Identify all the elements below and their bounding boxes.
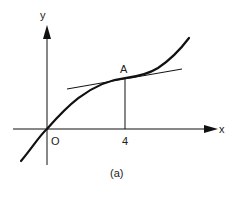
point-a-label: A	[120, 63, 128, 75]
y-axis-arrow-icon	[43, 25, 51, 39]
graph-figure: y x O A 4 (a)	[0, 0, 234, 198]
y-axis-label: y	[40, 9, 46, 21]
x-axis-label: x	[219, 123, 225, 135]
origin-label: O	[51, 135, 60, 147]
x-tick-label-4: 4	[122, 135, 128, 147]
function-curve	[21, 38, 189, 161]
x-axis-arrow-icon	[204, 125, 218, 133]
y-axis	[43, 25, 51, 165]
figure-caption: (a)	[110, 167, 123, 179]
